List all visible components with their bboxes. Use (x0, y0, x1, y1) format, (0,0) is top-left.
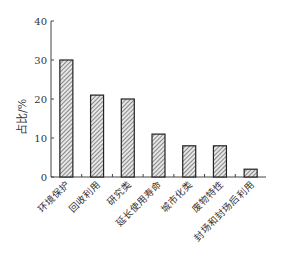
x-tick-label: 封场和封场后利用 (192, 179, 256, 243)
y-tick-label: 30 (34, 55, 47, 66)
bar (121, 99, 134, 177)
bar (244, 169, 257, 177)
x-tick-label: 回收利用 (66, 179, 102, 215)
bars (60, 60, 257, 177)
x-tick-label: 研究类 (104, 179, 133, 208)
y-tick-label: 10 (34, 133, 47, 144)
x-axis-labels: 环境保护回收利用研究类延长使用寿命城市化类废物特性封场和封场后利用 (36, 179, 256, 243)
y-tick-label: 40 (34, 16, 47, 27)
bar (213, 146, 226, 177)
bar (91, 95, 104, 177)
x-tick-label: 环境保护 (36, 179, 72, 215)
bar (152, 134, 165, 177)
bar-chart: 010203040 环境保护回收利用研究类延长使用寿命城市化类废物特性封场和封场… (0, 0, 289, 258)
y-axis-label: 占比/% (15, 99, 29, 135)
bar (183, 146, 196, 177)
y-tick-label: 20 (34, 94, 47, 105)
bar (60, 60, 73, 177)
x-tick-label: 城市化类 (159, 179, 195, 215)
y-tick-label: 0 (41, 172, 47, 183)
